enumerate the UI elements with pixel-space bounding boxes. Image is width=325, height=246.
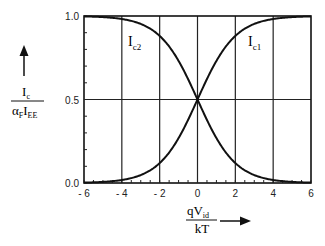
svg-text:- 2: - 2	[154, 188, 166, 199]
svg-text:2: 2	[233, 188, 239, 199]
ic1-label: Ic1	[248, 34, 261, 52]
y-axis-label: Ic αFIEE	[11, 45, 44, 120]
right-arrow-head-icon	[240, 217, 251, 226]
up-arrow-head-icon	[20, 45, 29, 56]
svg-text:αFIEE: αFIEE	[12, 103, 37, 120]
svg-text:4: 4	[270, 188, 276, 199]
svg-text:Ic: Ic	[22, 84, 30, 101]
svg-text:kT: kT	[195, 221, 210, 236]
x-axis-label: qVid kT	[186, 203, 251, 236]
ic2-label: Ic2	[128, 34, 141, 52]
svg-text:0: 0	[195, 188, 201, 199]
chart: - 6- 4- 20246 0.00.51.0 Ic2 Ic1 Ic αFIEE…	[0, 0, 325, 246]
x-tick-labels: - 6- 4- 20246	[78, 188, 314, 199]
svg-text:qVid: qVid	[187, 203, 209, 220]
svg-text:1.0: 1.0	[65, 11, 79, 22]
svg-text:- 4: - 4	[116, 188, 128, 199]
svg-text:6: 6	[308, 188, 314, 199]
y-tick-labels: 0.00.51.0	[65, 11, 79, 189]
svg-text:0.5: 0.5	[65, 95, 79, 106]
svg-text:- 6: - 6	[78, 188, 90, 199]
svg-text:0.0: 0.0	[65, 178, 79, 189]
